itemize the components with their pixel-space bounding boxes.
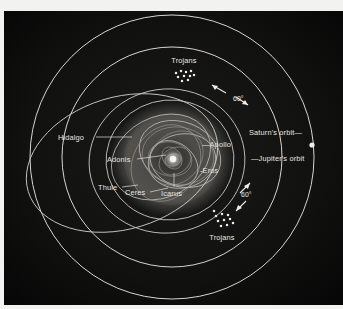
label-saturn-orbit: Saturn's orbit— — [249, 128, 302, 137]
label-apollo: —Apollo — [202, 140, 231, 149]
jupiter-planet-marker — [309, 142, 314, 147]
label-trojans-top: Trojans — [171, 56, 197, 65]
label-angle-top: 60° — [233, 95, 244, 102]
figure-root: Trojans 60° Saturn's orbit— —Jupiter's o… — [0, 0, 343, 309]
diagram-plate: Trojans 60° Saturn's orbit— —Jupiter's o… — [4, 11, 343, 305]
label-icarus: Icarus — [161, 189, 182, 198]
sun-marker — [170, 156, 176, 162]
label-adonis: Adonis — [107, 155, 131, 164]
label-trojans-bottom: Trojans — [209, 233, 235, 242]
orbit-diagram-svg: Trojans 60° Saturn's orbit— —Jupiter's o… — [4, 11, 343, 305]
label-jupiter-orbit: —Jupiter's orbit — [251, 154, 305, 163]
label-hidalgo: Hidalgo — [58, 133, 84, 142]
label-eros: -Eros — [200, 166, 219, 175]
label-angle-bottom: 60° — [241, 191, 252, 198]
label-ceres: Ceres — [125, 188, 146, 197]
label-thule: Thule — [98, 183, 117, 192]
